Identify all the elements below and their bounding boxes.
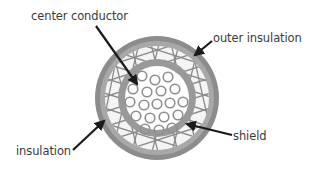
shield-label: shield xyxy=(233,129,266,143)
insulation-arrow xyxy=(73,121,104,150)
outer-insulation-arrow xyxy=(195,41,212,55)
outer-insulation-label: outer insulation xyxy=(213,31,302,45)
insulation-label: insulation xyxy=(16,144,71,158)
center-conductor-label: center conductor xyxy=(31,9,128,23)
